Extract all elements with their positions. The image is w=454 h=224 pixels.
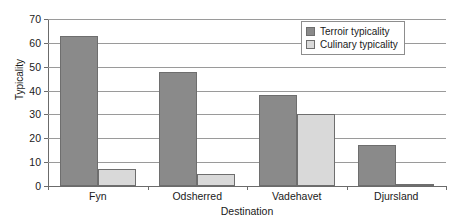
- bar-group: [48, 19, 148, 186]
- y-axis-tick-label: 40: [29, 85, 41, 96]
- x-axis-tick: [446, 186, 447, 190]
- y-axis-tick-label: 0: [35, 181, 41, 192]
- y-axis-tick-label: 30: [29, 109, 41, 120]
- y-axis-tick-label: 20: [29, 133, 41, 144]
- legend-item-terroir: Terroir typicality: [306, 25, 398, 38]
- legend-item-culinary: Culinary typicality: [306, 38, 398, 51]
- bar: [358, 145, 396, 186]
- x-axis-labels: FynOdsherredVadehavetDjursland: [48, 190, 446, 202]
- bar: [159, 72, 197, 187]
- bar: [60, 36, 98, 186]
- y-axis-tick-label: 10: [29, 157, 41, 168]
- bar: [396, 184, 434, 186]
- legend: Terroir typicality Culinary typicality: [301, 21, 405, 55]
- x-axis-label: Fyn: [48, 190, 148, 202]
- legend-swatch-icon: [306, 27, 315, 36]
- y-axis-tick-label: 60: [29, 38, 41, 49]
- x-axis-label: Vadehavet: [247, 190, 347, 202]
- bar: [98, 169, 136, 186]
- y-axis-tick-label: 70: [29, 14, 41, 25]
- x-axis-label: Djursland: [347, 190, 447, 202]
- x-axis-title: Destination: [48, 205, 446, 217]
- legend-label: Culinary typicality: [320, 39, 398, 50]
- bar-chart: Typicality 010203040506070 FynOdsherredV…: [0, 0, 454, 224]
- bar: [259, 95, 297, 186]
- bar: [297, 114, 335, 186]
- legend-label: Terroir typicality: [320, 26, 389, 37]
- y-axis-tick-label: 50: [29, 61, 41, 72]
- y-axis-title: Typicality: [14, 35, 25, 125]
- bar: [197, 174, 235, 186]
- legend-swatch-icon: [306, 40, 315, 49]
- x-axis-label: Odsherred: [148, 190, 248, 202]
- bar-group: [148, 19, 248, 186]
